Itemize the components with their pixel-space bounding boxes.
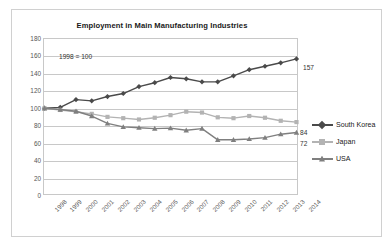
data-point — [215, 79, 220, 84]
series-line — [44, 108, 296, 140]
x-axis-tick-label: 2010 — [243, 198, 258, 213]
y-axis: 180160140120100806040200 — [17, 38, 41, 195]
chart-container: Employment in Main Manufacturing Industr… — [11, 9, 382, 237]
plot-area — [43, 38, 298, 195]
series-line — [44, 59, 296, 108]
data-point — [262, 64, 267, 69]
data-point — [231, 73, 236, 78]
y-axis-tick-label: 180 — [30, 35, 41, 42]
y-axis-tick-label: 40 — [34, 157, 41, 164]
x-axis-tick-label: 2005 — [164, 198, 179, 213]
legend-label: USA — [336, 155, 351, 163]
x-axis-tick-label: 2011 — [259, 198, 274, 213]
series-layer — [44, 39, 297, 195]
x-axis-tick-label: 2006 — [180, 198, 195, 213]
x-axis: 1998199920002001200220032004200520062007… — [43, 196, 298, 240]
data-point — [294, 120, 298, 124]
data-point — [152, 80, 157, 85]
legend-label: South Korea — [336, 121, 375, 129]
y-axis-tick-label: 100 — [30, 104, 41, 111]
x-axis-tick-label: 2000 — [84, 198, 99, 213]
end-label-south-korea: 157 — [303, 64, 314, 71]
x-axis-tick-label: 2007 — [195, 198, 210, 213]
data-point — [216, 115, 220, 119]
y-axis-tick-label: 140 — [30, 69, 41, 76]
x-axis-tick-label: 2012 — [275, 198, 290, 213]
x-axis-tick-label: 2009 — [227, 198, 242, 213]
data-point — [199, 79, 204, 84]
x-axis-tick-label: 2014 — [307, 198, 322, 213]
data-point — [105, 94, 110, 99]
y-axis-tick-label: 160 — [30, 52, 41, 59]
x-axis-tick-label: 1998 — [53, 198, 68, 213]
y-axis-tick-label: 0 — [37, 192, 41, 199]
y-axis-tick-label: 20 — [34, 174, 41, 181]
chart-title: Employment in Main Manufacturing Industr… — [12, 21, 312, 30]
y-axis-tick-label: 120 — [30, 87, 41, 94]
end-label-usa: 72 — [300, 140, 307, 147]
data-point — [153, 116, 157, 120]
legend-key-square-icon — [312, 137, 333, 146]
x-axis-tick-label: 2004 — [148, 198, 163, 213]
data-point — [278, 60, 283, 65]
legend-item-south-korea[interactable]: South Korea — [312, 116, 388, 133]
data-point — [279, 119, 283, 123]
data-point — [73, 97, 78, 102]
legend-label: Japan — [336, 138, 355, 146]
legend-item-japan[interactable]: Japan — [312, 133, 388, 150]
y-axis-tick-label: 60 — [34, 139, 41, 146]
data-point — [184, 76, 189, 81]
series-usa — [42, 106, 299, 142]
legend-key-triangle-icon — [312, 154, 333, 163]
end-label-japan: 84 — [300, 129, 307, 136]
series-south-korea — [42, 56, 299, 111]
data-point — [89, 98, 94, 103]
data-point — [121, 91, 126, 96]
data-point — [184, 110, 188, 114]
data-point — [247, 114, 251, 118]
data-point — [105, 115, 109, 119]
data-point — [121, 116, 125, 120]
data-point — [247, 67, 252, 72]
data-point — [263, 116, 267, 120]
y-axis-tick-label: 80 — [34, 122, 41, 129]
x-axis-tick-label: 2003 — [132, 198, 147, 213]
data-point — [294, 56, 299, 61]
data-point — [137, 117, 141, 121]
x-axis-tick-label: 2013 — [291, 198, 306, 213]
x-axis-tick-label: 2008 — [211, 198, 226, 213]
x-axis-tick-label: 2002 — [116, 198, 131, 213]
data-point — [168, 75, 173, 80]
series-japan — [42, 106, 298, 124]
legend-key-diamond-icon — [312, 120, 333, 129]
data-point — [136, 84, 141, 89]
data-point — [168, 113, 172, 117]
baseline-annotation: 1998 = 100 — [59, 53, 92, 60]
legend: South KoreaJapanUSA — [312, 116, 388, 167]
x-axis-tick-label: 2001 — [100, 198, 115, 213]
legend-item-usa[interactable]: USA — [312, 150, 388, 167]
data-point — [200, 110, 204, 114]
data-point — [231, 116, 235, 120]
x-axis-tick-label: 1999 — [68, 198, 83, 213]
